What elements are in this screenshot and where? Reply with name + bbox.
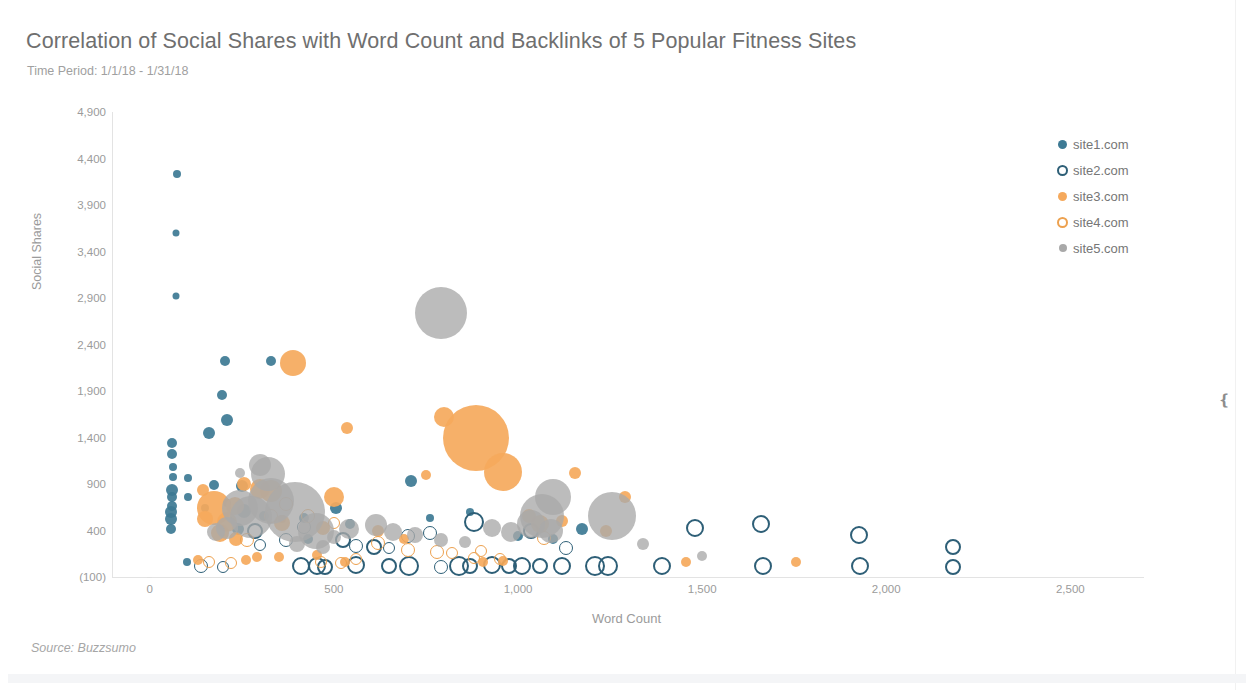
bubble-site3[interactable] [197, 484, 209, 496]
bubble-site2[interactable] [559, 541, 573, 555]
legend-item-site2[interactable]: site2.com [1057, 157, 1197, 183]
bubble-site1[interactable] [169, 473, 177, 481]
bubble-site5[interactable] [459, 536, 471, 548]
bubble-site1[interactable] [172, 229, 179, 236]
bubble-site1[interactable] [166, 524, 176, 534]
bubble-site4[interactable] [335, 557, 347, 569]
legend-item-site5[interactable]: site5.com [1057, 235, 1197, 261]
bubble-site2[interactable] [553, 557, 571, 575]
collapse-panel-icon[interactable]: ❴ [1218, 392, 1231, 407]
bubble-site5[interactable] [316, 540, 330, 554]
bubble-site4[interactable] [430, 545, 444, 559]
bubble-site4[interactable] [203, 556, 215, 568]
bubble-site4[interactable] [494, 553, 506, 565]
bubble-site2[interactable] [532, 558, 548, 574]
bubble-site3[interactable] [252, 552, 262, 562]
bubble-site1[interactable] [221, 414, 233, 426]
bubble-site4[interactable] [446, 547, 458, 559]
bubble-site3[interactable] [274, 552, 284, 562]
bubble-site3[interactable] [484, 453, 522, 491]
bubble-site2[interactable] [292, 557, 310, 575]
source-note: Source: Buzzsumo [31, 641, 136, 655]
bubble-site2[interactable] [851, 557, 869, 575]
bubble-site2[interactable] [434, 560, 448, 574]
bubble-site5[interactable] [697, 551, 707, 561]
bubble-site1[interactable] [173, 170, 181, 178]
legend-label: site4.com [1073, 215, 1129, 230]
bubble-site3[interactable] [237, 477, 251, 491]
bubble-site1[interactable] [184, 474, 192, 482]
legend-swatch-icon [1058, 140, 1067, 149]
legend-item-site1[interactable]: site1.com [1057, 131, 1197, 157]
bubble-site3[interactable] [324, 487, 344, 507]
x-tick-label: 0 [147, 583, 153, 595]
bubble-site3[interactable] [569, 467, 581, 479]
bubble-site5[interactable] [588, 492, 636, 540]
bubble-site5[interactable] [339, 519, 359, 539]
bubble-site5[interactable] [637, 538, 649, 550]
bubble-site1[interactable] [169, 463, 177, 471]
bubble-site2[interactable] [945, 559, 961, 575]
bubble-site3[interactable] [421, 470, 431, 480]
bubble-site1[interactable] [184, 493, 192, 501]
bubble-site5[interactable] [235, 468, 245, 478]
bubble-site4[interactable] [225, 557, 237, 569]
bubble-site3[interactable] [341, 422, 353, 434]
bubble-site1[interactable] [217, 390, 227, 400]
bubble-site4[interactable] [401, 543, 415, 557]
bubble-site3[interactable] [241, 555, 251, 565]
bubble-site2[interactable] [399, 556, 419, 576]
bottom-scroll-band[interactable] [8, 674, 1246, 683]
bubble-site2[interactable] [754, 557, 772, 575]
bubble-site4[interactable] [350, 553, 362, 565]
bubble-site2[interactable] [513, 557, 531, 575]
bubble-site1[interactable] [172, 293, 179, 300]
bubble-site3[interactable] [681, 557, 691, 567]
bubble-site2[interactable] [653, 557, 671, 575]
bubble-site1[interactable] [183, 558, 191, 566]
bubble-site5[interactable] [434, 533, 448, 547]
bubble-site2[interactable] [850, 526, 868, 544]
bubble-site2[interactable] [254, 539, 266, 551]
y-tick-label: 900 [46, 478, 106, 490]
bubble-site1[interactable] [209, 480, 219, 490]
bubble-site3[interactable] [193, 555, 203, 565]
bubble-site5[interactable] [384, 523, 402, 541]
bubble-site3[interactable] [791, 557, 801, 567]
bubble-site1[interactable] [167, 449, 177, 459]
bubble-site5[interactable] [289, 536, 305, 552]
bubble-site5[interactable] [483, 519, 501, 537]
bubble-site4[interactable] [468, 552, 480, 564]
plot-area [113, 112, 1144, 577]
bubble-site2[interactable] [598, 556, 618, 576]
bubble-site2[interactable] [381, 558, 397, 574]
legend-item-site3[interactable]: site3.com [1057, 183, 1197, 209]
bubble-site3[interactable] [280, 350, 306, 376]
bubble-site5[interactable] [501, 522, 521, 542]
bubble-site2[interactable] [349, 539, 363, 553]
bubble-site5[interactable] [539, 519, 563, 543]
bubble-site1[interactable] [266, 356, 276, 366]
bubble-site2[interactable] [752, 515, 770, 533]
bubble-site1[interactable] [426, 514, 434, 522]
y-tick-label: 2,400 [46, 339, 106, 351]
bubble-site1[interactable] [576, 523, 588, 535]
bubble-site2[interactable] [686, 519, 704, 537]
bubble-site4[interactable] [315, 556, 327, 568]
bubble-site5[interactable] [415, 287, 467, 339]
y-tick-label: (100) [46, 571, 106, 583]
bubble-site1[interactable] [405, 475, 417, 487]
bubble-site4[interactable] [371, 536, 385, 550]
bubble-site1[interactable] [203, 427, 215, 439]
bubble-site1[interactable] [167, 438, 177, 448]
y-tick-mark [147, 577, 152, 578]
bubble-site5[interactable] [207, 523, 225, 541]
bubble-site1[interactable] [220, 356, 230, 366]
bubble-site2[interactable] [945, 539, 961, 555]
legend-label: site2.com [1073, 163, 1129, 178]
legend-item-site4[interactable]: site4.com [1057, 209, 1197, 235]
bubble-site2[interactable] [464, 512, 484, 532]
bubble-site5[interactable] [407, 527, 423, 543]
legend-swatch-icon [1057, 217, 1068, 228]
legend-swatch-icon [1058, 192, 1067, 201]
